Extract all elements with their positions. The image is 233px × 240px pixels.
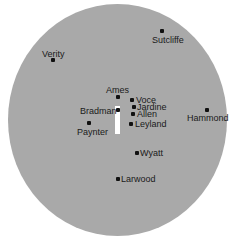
fielder-dot-sutcliffe <box>160 29 164 33</box>
fielder-label-hammond: Hammond <box>187 113 229 123</box>
fielder-dot-jardine <box>132 105 136 109</box>
fielder-label-sutcliffe: Sutcliffe <box>152 35 184 45</box>
fielder-dot-voce <box>130 98 134 102</box>
fielder-label-wyatt: Wyatt <box>140 148 163 158</box>
fielder-label-ames: Ames <box>106 85 129 95</box>
fielder-label-verity: Verity <box>42 49 65 59</box>
fielder-dot-hammond <box>205 108 209 112</box>
fielder-label-bradman: Bradman <box>80 106 117 116</box>
fielder-label-allen: Allen <box>137 109 157 119</box>
fielder-dot-larwood <box>116 177 120 181</box>
fielder-dot-bradman <box>116 108 120 112</box>
fielder-dot-leyland <box>129 122 133 126</box>
fielder-label-larwood: Larwood <box>121 174 156 184</box>
fielder-label-paynter: Paynter <box>77 127 108 137</box>
fielder-dot-wyatt <box>135 151 139 155</box>
fielder-dot-ames <box>116 95 120 99</box>
fielder-dot-allen <box>131 112 135 116</box>
fielder-label-leyland: Leyland <box>135 119 167 129</box>
fielder-dot-paynter <box>87 121 91 125</box>
